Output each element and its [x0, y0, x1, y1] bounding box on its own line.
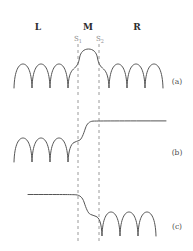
panel-a-curve	[14, 49, 163, 88]
panel-label-a: (a)	[172, 77, 182, 86]
region-label-R: R	[133, 22, 141, 32]
region-label-L: L	[35, 22, 42, 32]
figure-svg: L M R S1 S2 (a) (b) (c)	[0, 0, 193, 251]
panel-label-b: (b)	[172, 148, 183, 157]
panel-b-curve	[14, 121, 166, 162]
panel-c-curve	[28, 195, 156, 237]
separator-label-S1: S1	[74, 35, 82, 44]
figure-container: L M R S1 S2 (a) (b) (c)	[0, 0, 193, 251]
separator-label-S2: S2	[96, 35, 104, 44]
separator-label-S2-sub: 2	[101, 38, 104, 44]
panel-label-c: (c)	[172, 222, 182, 231]
region-label-M: M	[83, 22, 93, 32]
separator-label-S1-sub: 1	[79, 38, 82, 44]
